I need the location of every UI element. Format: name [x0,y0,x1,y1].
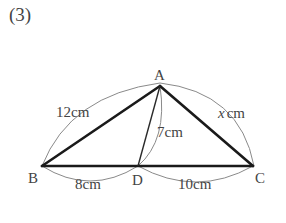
measure-ac: xcm [217,105,245,121]
measure-dc-value: 10 [178,176,193,192]
measure-ad-unit: cm [165,124,184,140]
measure-dc-unit: cm [193,176,212,192]
measure-ab-unit: cm [71,104,90,120]
measure-ac-unit: cm [227,105,246,121]
measure-bd-unit: cm [83,176,102,192]
measure-ac-value: x [217,105,225,121]
triangle-figure: A B C D 12cm xcm 7cm 8cm 10cm [0,0,286,223]
vertex-label-c: C [255,170,265,186]
measure-dc: 10cm [178,176,212,192]
vertex-label-d: D [132,172,143,188]
measure-ad: 7cm [157,124,183,140]
measure-labels: 12cm xcm 7cm 8cm 10cm [56,104,245,192]
triangle-edges [42,86,253,166]
measure-bd-value: 8 [75,176,83,192]
vertex-label-b: B [28,170,38,186]
measure-bd: 8cm [75,176,101,192]
vertex-label-a: A [154,67,165,83]
measure-ab: 12cm [56,104,90,120]
measure-ab-value: 12 [56,104,71,120]
edge-ab [42,86,160,166]
